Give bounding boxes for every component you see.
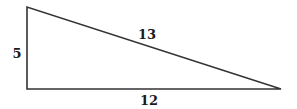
- vertical-side-label: 5: [12, 46, 21, 61]
- hypotenuse-label: 13: [138, 27, 156, 42]
- right-triangle: [27, 7, 281, 89]
- triangle-diagram: 5 13 12: [0, 0, 297, 109]
- base-label: 12: [140, 93, 158, 108]
